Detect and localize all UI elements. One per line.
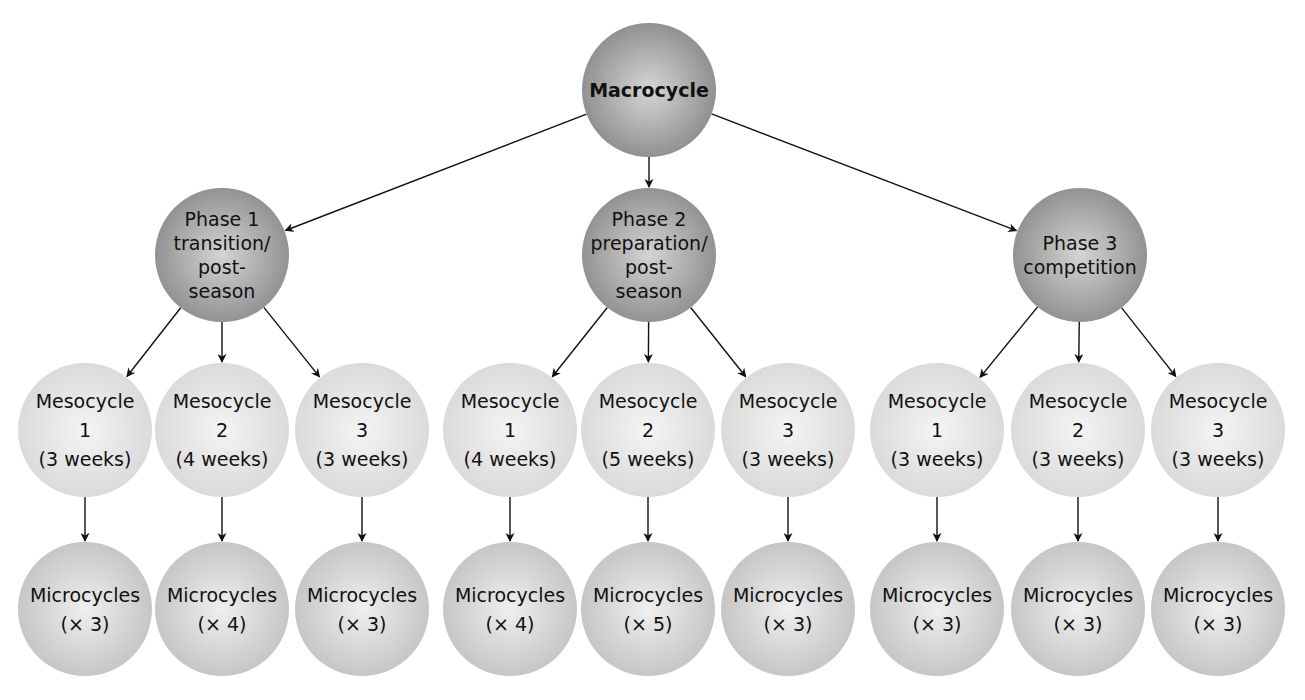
phase-2-node-label-line: season xyxy=(616,280,683,302)
mesocycle-1-1-node-label-line: Mesocycle xyxy=(36,390,135,412)
phase-1-node: Phase 1transition/post-season xyxy=(155,188,289,322)
microcycles-3-1-node-label-line: Microcycles xyxy=(882,584,992,606)
microcycles-3-1-node: Microcycles(× 3) xyxy=(870,542,1004,676)
microcycles-1-2-node-circle xyxy=(155,542,289,676)
microcycles-1-1-node: Microcycles(× 3) xyxy=(18,542,152,676)
microcycles-2-3-node: Microcycles(× 3) xyxy=(721,542,855,676)
microcycles-1-1-node-circle xyxy=(18,542,152,676)
mesocycle-2-2-node: Mesocycle2(5 weeks) xyxy=(581,363,715,497)
mesocycle-2-3-node-label-line: 3 xyxy=(782,419,794,441)
microcycles-3-3-node: Microcycles(× 3) xyxy=(1151,542,1285,676)
macrocycle-label: Macrocycle xyxy=(589,79,709,101)
mesocycle-3-2-node-label-line: Mesocycle xyxy=(1029,390,1128,412)
microcycles-2-3-node-label-line: Microcycles xyxy=(733,584,843,606)
microcycles-3-2-node-circle xyxy=(1011,542,1145,676)
microcycles-1-3-node-circle xyxy=(295,542,429,676)
microcycles-1-2-node-label-line: Microcycles xyxy=(167,584,277,606)
phase-2-node-label-line: preparation/ xyxy=(590,232,708,254)
edge-phase-1-to-meso-1 xyxy=(127,308,181,377)
mesocycle-2-3-node-label-line: (3 weeks) xyxy=(742,448,835,470)
macrocycle-node: Macrocycle xyxy=(582,23,716,157)
mesocycle-2-3-node: Mesocycle3(3 weeks) xyxy=(721,363,855,497)
mesocycle-1-1-node-label-line: 1 xyxy=(79,419,91,441)
nodes-layer: MacrocyclePhase 1transition/post-seasonM… xyxy=(18,23,1285,676)
phase-3-node-circle xyxy=(1013,188,1147,322)
microcycles-2-1-node: Microcycles(× 4) xyxy=(443,542,577,676)
microcycles-1-3-node-label-line: (× 3) xyxy=(338,613,387,635)
mesocycle-3-2-node-label-line: 2 xyxy=(1072,419,1084,441)
microcycles-1-3-node-label-line: Microcycles xyxy=(307,584,417,606)
mesocycle-2-1-node-label-line: 1 xyxy=(504,419,516,441)
mesocycle-1-2-node-label-line: Mesocycle xyxy=(173,390,272,412)
microcycles-3-3-node-label-line: (× 3) xyxy=(1194,613,1243,635)
edge-phase-1-to-meso-3 xyxy=(264,307,320,377)
microcycles-1-3-node: Microcycles(× 3) xyxy=(295,542,429,676)
mesocycle-2-2-node-label-line: Mesocycle xyxy=(599,390,698,412)
mesocycle-3-3-node-label-line: (3 weeks) xyxy=(1172,448,1265,470)
edge-macro-to-phase-3 xyxy=(712,114,1017,231)
microcycles-2-3-node-circle xyxy=(721,542,855,676)
phase-1-node-label-line: post- xyxy=(198,256,246,278)
periodization-diagram: MacrocyclePhase 1transition/post-seasonM… xyxy=(0,0,1305,700)
mesocycle-3-3-node-label-line: 3 xyxy=(1212,419,1224,441)
microcycles-3-1-node-circle xyxy=(870,542,1004,676)
mesocycle-1-3-node-label-line: Mesocycle xyxy=(313,390,412,412)
mesocycle-1-1-node-label-line: (3 weeks) xyxy=(39,448,132,470)
mesocycle-2-1-node: Mesocycle1(4 weeks) xyxy=(443,363,577,497)
mesocycle-3-1-node: Mesocycle1(3 weeks) xyxy=(870,363,1004,497)
mesocycle-3-1-node-label-line: (3 weeks) xyxy=(891,448,984,470)
phase-3-node: Phase 3competition xyxy=(1013,188,1147,322)
mesocycle-2-1-node-label-line: Mesocycle xyxy=(461,390,560,412)
edge-phase-2-to-meso-3 xyxy=(691,307,746,376)
phase-1-node-label-line: transition/ xyxy=(174,232,272,254)
phase-2-node-label-line: Phase 2 xyxy=(612,208,687,230)
microcycles-1-2-node-label-line: (× 4) xyxy=(198,613,247,635)
mesocycle-3-2-node: Mesocycle2(3 weeks) xyxy=(1011,363,1145,497)
microcycles-2-1-node-label-line: Microcycles xyxy=(455,584,565,606)
mesocycle-1-3-node-label-line: (3 weeks) xyxy=(316,448,409,470)
microcycles-3-1-node-label-line: (× 3) xyxy=(913,613,962,635)
edge-phase-2-to-meso-1 xyxy=(552,307,607,376)
microcycles-1-1-node-label-line: (× 3) xyxy=(61,613,110,635)
phase-1-node-label-line: Phase 1 xyxy=(185,208,260,230)
mesocycle-3-3-node-label-line: Mesocycle xyxy=(1169,390,1268,412)
microcycles-1-2-node: Microcycles(× 4) xyxy=(155,542,289,676)
mesocycle-1-2-node-label-line: (4 weeks) xyxy=(176,448,269,470)
microcycles-2-2-node-label-line: Microcycles xyxy=(593,584,703,606)
microcycles-2-1-node-circle xyxy=(443,542,577,676)
edge-phase-3-to-meso-1 xyxy=(980,307,1038,377)
microcycles-2-1-node-label-line: (× 4) xyxy=(486,613,535,635)
microcycles-2-3-node-label-line: (× 3) xyxy=(764,613,813,635)
microcycles-3-2-node: Microcycles(× 3) xyxy=(1011,542,1145,676)
microcycles-2-2-node-label-line: (× 5) xyxy=(624,613,673,635)
mesocycle-3-1-node-label-line: Mesocycle xyxy=(888,390,987,412)
microcycles-3-2-node-label-line: (× 3) xyxy=(1054,613,1103,635)
microcycles-3-3-node-label-line: Microcycles xyxy=(1163,584,1273,606)
edge-phase-3-to-meso-3 xyxy=(1121,308,1175,377)
mesocycle-3-1-node-label-line: 1 xyxy=(931,419,943,441)
mesocycle-1-3-node-label-line: 3 xyxy=(356,419,368,441)
mesocycle-2-1-node-label-line: (4 weeks) xyxy=(464,448,557,470)
mesocycle-2-2-node-label-line: 2 xyxy=(642,419,654,441)
microcycles-2-2-node: Microcycles(× 5) xyxy=(581,542,715,676)
microcycles-3-3-node-circle xyxy=(1151,542,1285,676)
microcycles-1-1-node-label-line: Microcycles xyxy=(30,584,140,606)
phase-3-node-label-line: Phase 3 xyxy=(1043,232,1118,254)
microcycles-2-2-node-circle xyxy=(581,542,715,676)
phase-3-node-label-line: competition xyxy=(1023,256,1136,278)
mesocycle-3-3-node: Mesocycle3(3 weeks) xyxy=(1151,363,1285,497)
mesocycle-2-2-node-label-line: (5 weeks) xyxy=(602,448,695,470)
mesocycle-1-1-node: Mesocycle1(3 weeks) xyxy=(18,363,152,497)
edge-macro-to-phase-1 xyxy=(285,114,586,230)
microcycles-3-2-node-label-line: Microcycles xyxy=(1023,584,1133,606)
phase-2-node: Phase 2preparation/post-season xyxy=(582,188,716,322)
mesocycle-1-3-node: Mesocycle3(3 weeks) xyxy=(295,363,429,497)
phase-2-node-label-line: post- xyxy=(625,256,673,278)
mesocycle-2-3-node-label-line: Mesocycle xyxy=(739,390,838,412)
mesocycle-1-2-node-label-line: 2 xyxy=(216,419,228,441)
mesocycle-1-2-node: Mesocycle2(4 weeks) xyxy=(155,363,289,497)
phase-1-node-label-line: season xyxy=(189,280,256,302)
mesocycle-3-2-node-label-line: (3 weeks) xyxy=(1032,448,1125,470)
